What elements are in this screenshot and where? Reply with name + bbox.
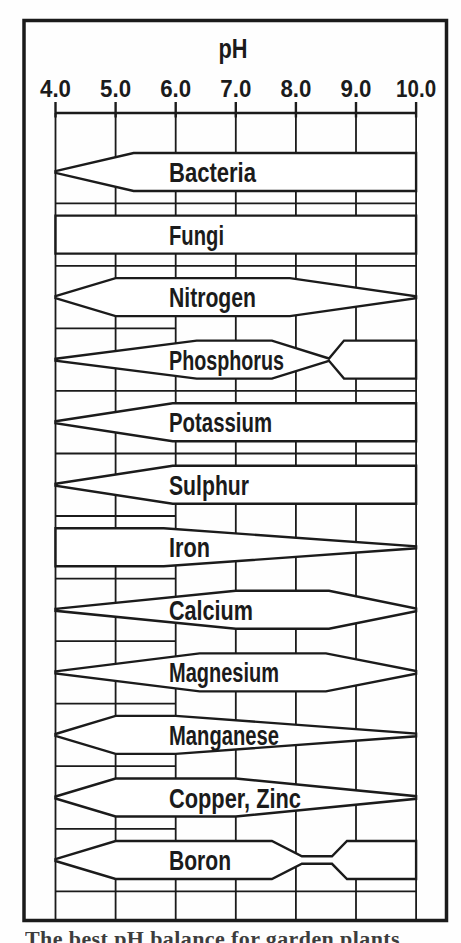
chart-title-ph: pH xyxy=(219,34,248,64)
band-label-iron: Iron xyxy=(169,533,210,563)
ph-tick-label-8: 8.0 xyxy=(280,75,311,102)
band-label-bacteria: Bacteria xyxy=(169,158,257,188)
nutrient-ph-availability-chart: 4.05.06.07.08.09.010.0pHBacteriaFungiNit… xyxy=(0,0,461,943)
band-shape-iron xyxy=(56,528,417,566)
band-label-copper-zinc: Copper, Zinc xyxy=(169,784,301,814)
band-label-potassium: Potassium xyxy=(169,408,272,438)
band-label-nitrogen: Nitrogen xyxy=(169,283,256,313)
ph-tick-label-6: 6.0 xyxy=(160,75,191,102)
band-label-manganese: Manganese xyxy=(169,721,279,751)
ph-tick-label-5: 5.0 xyxy=(100,75,131,102)
band-label-boron: Boron xyxy=(169,846,231,876)
book-page-scan: 4.05.06.07.08.09.010.0pHBacteriaFungiNit… xyxy=(0,0,461,943)
band-label-phosphorus: Phosphorus xyxy=(169,346,284,376)
band-label-fungi: Fungi xyxy=(169,221,224,251)
ph-tick-label-4: 4.0 xyxy=(40,75,71,102)
band-shape-fungi xyxy=(56,216,417,254)
ph-tick-label-10: 10.0 xyxy=(396,75,436,102)
caption-fragment-clipped: The best pH balance for garden plants xyxy=(25,926,450,943)
ph-axis: 4.05.06.07.08.09.010.0 xyxy=(40,75,436,118)
ph-tick-label-9: 9.0 xyxy=(341,75,372,102)
band-label-sulphur: Sulphur xyxy=(169,471,249,501)
band-label-magnesium: Magnesium xyxy=(169,658,279,688)
band-label-calcium: Calcium xyxy=(169,596,253,626)
band-shape-boron xyxy=(56,841,417,879)
ph-tick-label-7: 7.0 xyxy=(220,75,251,102)
